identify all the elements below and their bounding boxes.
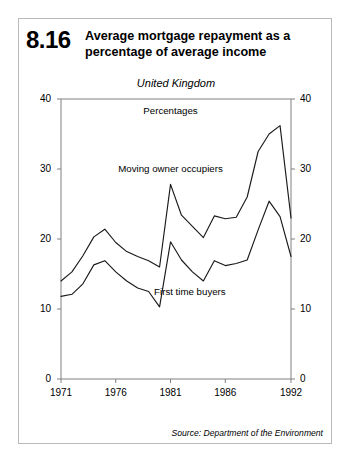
x-axis-tick-label: 1992 — [271, 387, 311, 398]
y-axis-tick-label-left: 10 — [29, 303, 51, 314]
data-line-series-0 — [61, 126, 291, 281]
line-chart-plot — [19, 77, 333, 407]
y-axis-tick-label-left: 30 — [29, 163, 51, 174]
y-axis-tick-label-right: 40 — [300, 93, 322, 104]
y-axis-tick-label-right: 0 — [300, 373, 322, 384]
y-axis-tick-label-left: 20 — [29, 233, 51, 244]
y-axis-tick-label-right: 30 — [300, 163, 322, 174]
title-block: 8.16 Average mortgage repayment as a per… — [19, 27, 333, 73]
page-title: Average mortgage repayment as a percenta… — [85, 29, 325, 60]
y-axis-tick-label-left: 40 — [29, 93, 51, 104]
y-axis-tick-label-right: 10 — [300, 303, 322, 314]
x-axis-tick-label: 1971 — [41, 387, 81, 398]
y-axis-tick-label-left: 0 — [29, 373, 51, 384]
source-note: Source: Department of the Environment — [172, 428, 323, 438]
figure-number: 8.16 — [26, 27, 71, 53]
x-axis-tick-label: 1976 — [96, 387, 136, 398]
figure-panel: 8.16 Average mortgage repayment as a per… — [18, 18, 332, 444]
chart-annotation: Percentages — [143, 105, 197, 117]
axes-group — [57, 99, 295, 383]
x-axis-tick-label: 1986 — [205, 387, 245, 398]
data-lines-group — [61, 126, 291, 307]
chart-annotation: First time buyers — [154, 286, 226, 298]
x-axis-tick-label: 1981 — [151, 387, 191, 398]
y-axis-tick-label-right: 20 — [300, 233, 322, 244]
chart-annotation: Moving owner occupiers — [118, 163, 222, 175]
chart-container: United Kingdom 0010102020303040401971197… — [19, 77, 333, 407]
